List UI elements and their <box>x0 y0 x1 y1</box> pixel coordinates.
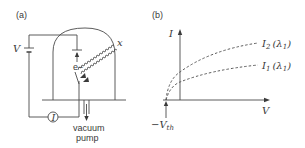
radiation-label: x <box>117 37 123 48</box>
threshold-label: −Vth <box>151 119 174 132</box>
cathode-plate <box>75 72 79 84</box>
pump-label-line1: vacuum <box>73 123 105 133</box>
electron-label: e− <box>73 62 83 72</box>
y-axis-arrow-head <box>178 29 182 35</box>
voltage-label: V <box>13 43 22 54</box>
panel-b <box>163 32 267 118</box>
pump-label-line2: pump <box>76 133 99 143</box>
pump-arrow-head <box>84 116 88 121</box>
x-ray-wave-1 <box>78 45 114 70</box>
threshold-arrow-head <box>164 101 168 106</box>
x-ray-wave-2 <box>81 49 117 74</box>
vacuum-tube <box>53 28 115 100</box>
x-axis-arrow-head <box>264 98 270 102</box>
y-axis-label: I <box>168 28 174 39</box>
electron-arrow-head <box>75 52 79 57</box>
x-axis-label: V <box>262 105 271 116</box>
curve-i1-label: I1(λ1) <box>261 60 291 73</box>
panel-b-label: (b) <box>152 10 163 20</box>
curve-i2-label: I2(λ1) <box>261 38 291 51</box>
photoelectric-figure: (a) V I e− x vacuum pump (b) I V −Vth I2… <box>0 0 305 148</box>
panel-a <box>24 28 126 122</box>
circuit-wire-bottom <box>58 81 79 117</box>
x-ray-beams <box>78 45 117 74</box>
circuit-wire-left <box>29 52 48 117</box>
panel-a-label: (a) <box>16 10 27 20</box>
